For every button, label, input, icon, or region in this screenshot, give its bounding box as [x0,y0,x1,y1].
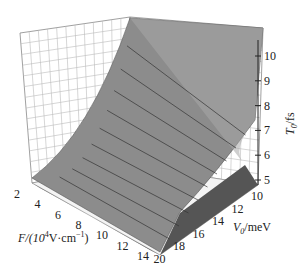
z-axis-label: T0/fs [283,112,299,135]
svg-text:20: 20 [154,252,166,266]
svg-text:10: 10 [96,228,108,242]
svg-text:14: 14 [137,249,149,263]
svg-text:2: 2 [14,187,20,201]
svg-text:14: 14 [212,214,224,228]
svg-text:12: 12 [117,239,129,253]
svg-text:7: 7 [264,123,270,137]
svg-text:4: 4 [35,197,41,211]
svg-text:16: 16 [193,227,205,241]
svg-text:10: 10 [251,189,263,203]
y-axis-label: V0/meV [233,220,271,236]
svg-text:10: 10 [264,49,276,63]
svg-text:18: 18 [173,239,185,253]
surface-plot: 5678910 2468101214 101214161820 F/(104V·… [0,0,308,267]
svg-text:12: 12 [232,202,244,216]
svg-text:6: 6 [264,148,270,162]
svg-text:5: 5 [264,173,270,187]
svg-text:8: 8 [264,99,270,113]
svg-text:6: 6 [55,208,61,222]
svg-text:9: 9 [264,74,270,88]
x-axis-label: F/(104V·cm−1) [17,230,89,245]
